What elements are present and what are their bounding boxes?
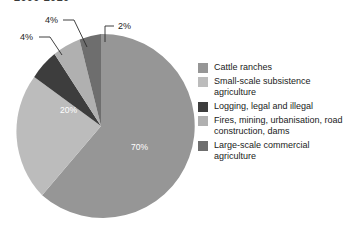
legend-item-cattle-ranches[interactable]: Cattle ranches <box>198 62 350 73</box>
legend-label-large-scale-commercial: Large-scale commercial agriculture <box>214 140 349 162</box>
legend-item-logging[interactable]: Logging, legal and illegal <box>198 101 350 112</box>
slice-value-label-cattle-ranches: 70% <box>131 142 148 152</box>
legend-label-fires-mining-urbanisation: Fires, mining, urbanisation, road constr… <box>214 115 349 137</box>
legend-swatch-icon-logging <box>198 102 208 112</box>
chart-legend: Cattle ranches Small-scale subsistence a… <box>198 62 350 165</box>
legend-label-logging: Logging, legal and illegal <box>214 101 313 112</box>
legend-label-cattle-ranches: Cattle ranches <box>214 62 272 73</box>
legend-swatch-icon-large-scale-commercial <box>198 141 208 151</box>
callout-label-large-scale: 2% <box>118 21 131 31</box>
callout-label-fires: 4% <box>45 15 58 25</box>
callout-label-logging: 4% <box>20 32 33 42</box>
slice-value-label-small-scale: 20% <box>60 105 77 115</box>
legend-label-small-scale-subsistence: Small-scale subsistence agriculture <box>214 76 349 98</box>
legend-item-large-scale-commercial[interactable]: Large-scale commercial agriculture <box>198 140 350 162</box>
legend-swatch-icon-cattle-ranches <box>198 63 208 73</box>
pie-chart-figure: 2000-2010 70% 20% 4% 4% 2% Cattle ranche… <box>0 0 352 226</box>
legend-item-small-scale-subsistence[interactable]: Small-scale subsistence agriculture <box>198 76 350 98</box>
legend-item-fires-mining-urbanisation[interactable]: Fires, mining, urbanisation, road constr… <box>198 115 350 137</box>
legend-swatch-icon-fires-mining-urbanisation <box>198 116 208 126</box>
legend-swatch-icon-small-scale-subsistence <box>198 77 208 87</box>
